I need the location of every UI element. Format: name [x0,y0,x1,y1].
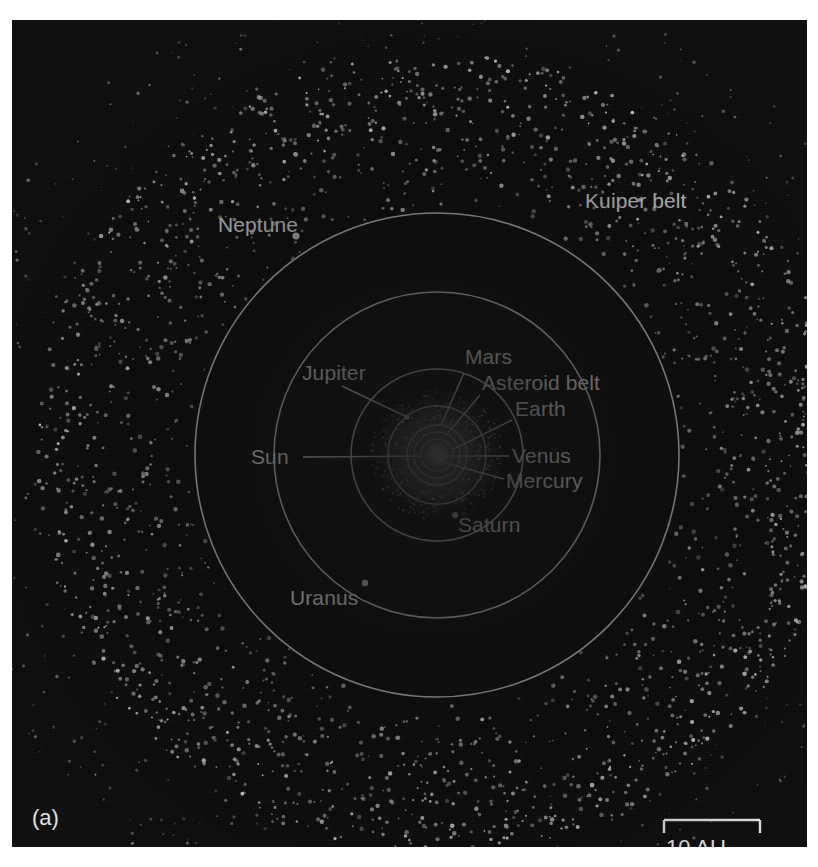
scale-bar-label: 10 AU [666,835,726,847]
label-mars: Mars [465,345,512,368]
orbit-jupiter [388,406,486,504]
label-venus: Venus [512,444,571,467]
orbits-and-labels: Neptune Kuiper belt Jupiter Mars Asteroi… [12,20,807,847]
leader-jupiter [342,386,409,418]
scale-bar: 10 AU [664,820,760,847]
label-asteroid-belt: Asteroid belt [482,371,600,394]
label-kuiper-belt: Kuiper belt [585,189,687,212]
figure-root: Neptune Kuiper belt Jupiter Mars Asteroi… [0,0,818,867]
leader-earth [452,420,512,450]
label-uranus: Uranus [290,586,358,609]
leader-mercury [442,462,504,479]
planet-dot-uranus [362,580,368,586]
label-neptune: Neptune [218,213,298,236]
orbit-venus [421,439,453,471]
panel-label: (a) [32,805,59,830]
scale-bar-bracket [664,820,760,833]
label-earth: Earth [515,397,566,420]
leader-asteroid-belt [448,395,480,433]
label-sun: Sun [251,445,289,468]
diagram-plate: Neptune Kuiper belt Jupiter Mars Asteroi… [12,20,807,847]
label-saturn: Saturn [458,513,520,536]
label-jupiter: Jupiter [302,361,366,384]
orbit-mars [407,425,467,485]
leader-sun [303,456,436,457]
label-mercury: Mercury [506,469,583,492]
